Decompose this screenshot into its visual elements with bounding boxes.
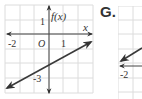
x-tick-neg2: -2 [120,69,128,80]
origin-label: O [38,38,45,49]
graph-panel-g-partial: -2 [118,6,142,99]
x-tick-neg2: -2 [8,38,16,49]
graph-panel-f: f(x) x 1 -2 O 1 -3 [0,0,100,99]
y-tick-neg3: -3 [33,73,41,84]
function-line [121,48,142,61]
x-label: x [82,21,88,33]
x-tick-1: 1 [61,38,66,49]
y-tick-1: 1 [40,16,45,27]
y-label: f(x) [51,10,67,23]
option-g-label[interactable]: G. [100,3,116,20]
